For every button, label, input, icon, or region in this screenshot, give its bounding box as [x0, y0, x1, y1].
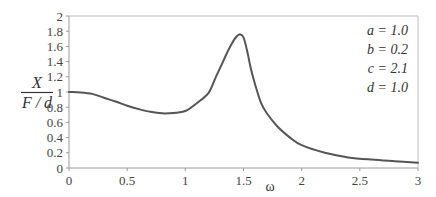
x-axis-tick-labels: 0 0.5 1 1.5 2 2.5 3 [66, 173, 422, 188]
y-axis-title-numerator: X [31, 74, 43, 91]
x-tick-label: 0.5 [119, 173, 135, 188]
x-tick-label: 3 [415, 173, 422, 188]
y-tick-label: 2 [57, 9, 64, 24]
y-tick-label: 1.6 [47, 39, 64, 54]
x-tick-label: 2.5 [352, 173, 368, 188]
y-tick-label: 0.2 [47, 145, 63, 160]
y-axis-title-denominator: F / d [21, 94, 53, 111]
y-tick-label: 1 [57, 85, 64, 100]
y-tick-label: 0 [57, 161, 64, 176]
y-tick-label: 0.6 [47, 115, 64, 130]
param-b: b = 0.2 [367, 42, 408, 57]
x-tick-label: 1.5 [235, 173, 251, 188]
x-tick-label: 0 [66, 173, 73, 188]
parameter-legend: a = 1.0 b = 0.2 c = 2.1 d = 1.0 [367, 23, 408, 95]
y-tick-label: 0.4 [47, 130, 64, 145]
y-tick-label: 1.4 [47, 54, 64, 69]
x-tick-label: 2 [298, 173, 305, 188]
x-tick-label: 1 [182, 173, 189, 188]
param-d: d = 1.0 [367, 80, 408, 95]
x-axis-title: ω [265, 179, 274, 194]
response-curve [69, 34, 418, 163]
y-tick-label: 1.2 [47, 69, 63, 84]
param-c: c = 2.1 [368, 61, 408, 76]
param-a: a = 1.0 [367, 23, 408, 38]
y-tick-label: 1.8 [47, 24, 63, 39]
frequency-response-chart: 0 0.2 0.4 0.6 0.8 1 1.2 1.4 1.6 1.8 2 0 … [0, 0, 436, 197]
